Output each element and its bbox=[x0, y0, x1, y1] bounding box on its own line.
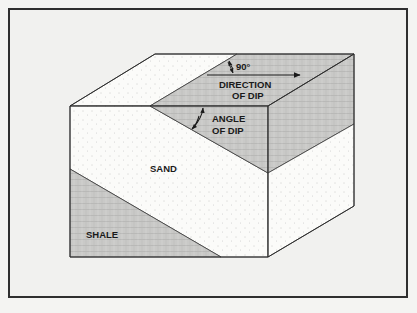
angle-of-dip-label-line2: OF DIP bbox=[212, 125, 244, 136]
shale-label: SHALE bbox=[86, 229, 118, 240]
dip-block-diagram: 90° DIRECTION OF DIP ANGLE OF DIP SAND S… bbox=[0, 0, 417, 313]
right-angle-label: 90° bbox=[236, 61, 251, 72]
direction-of-dip-label-line2: OF DIP bbox=[232, 90, 264, 101]
direction-of-dip-label-line1: DIRECTION bbox=[219, 79, 271, 90]
angle-of-dip-label-line1: ANGLE bbox=[212, 113, 245, 124]
sand-label: SAND bbox=[150, 163, 177, 174]
